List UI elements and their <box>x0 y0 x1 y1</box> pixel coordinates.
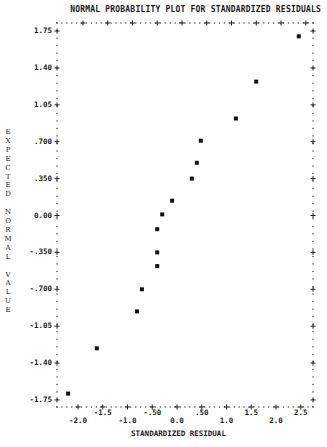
frame-right-dot <box>312 226 313 227</box>
frame-bottom-dot <box>293 406 294 407</box>
data-point <box>155 227 159 231</box>
frame-right-dot <box>312 339 313 340</box>
frame-top-dot <box>150 22 151 23</box>
frame-bottom-dot <box>91 406 92 407</box>
frame-bottom-dot <box>209 406 210 407</box>
frame-left-dot <box>56 294 57 295</box>
frame-left-dot <box>56 331 57 332</box>
frame-top-dot <box>239 22 240 23</box>
frame-right-dot <box>312 196 313 197</box>
frame-bottom-dot <box>258 406 259 407</box>
frame-left-dot <box>56 60 57 61</box>
frame-left-dot <box>56 376 57 377</box>
frame-right-dot <box>312 271 313 272</box>
frame-right-dot <box>312 211 313 212</box>
frame-right-dot <box>312 22 313 23</box>
frame-bottom-dot <box>263 406 264 407</box>
frame-top-dot <box>244 22 245 23</box>
frame-bottom-dot <box>283 406 284 407</box>
frame-top-dot <box>293 22 294 23</box>
frame-bottom-dot <box>194 406 195 407</box>
frame-top-dot <box>120 22 121 23</box>
frame-top-dot <box>194 22 195 23</box>
frame-bottom-dot <box>244 406 245 407</box>
frame-bottom-dot <box>66 406 67 407</box>
frame-right-dot <box>312 376 313 377</box>
frame-bottom-dot <box>116 406 117 407</box>
frame-left-dot <box>56 271 57 272</box>
frame-left-dot <box>56 173 57 174</box>
data-point <box>140 287 144 291</box>
frame-right-dot <box>312 53 313 54</box>
frame-right-dot <box>312 256 313 257</box>
frame-top-dot <box>184 22 185 23</box>
frame-right-dot <box>312 166 313 167</box>
data-point <box>195 161 199 165</box>
frame-left-dot <box>56 301 57 302</box>
data-point <box>66 392 70 396</box>
frame-bottom-dot <box>234 406 235 407</box>
frame-left-dot <box>56 391 57 392</box>
frame-top-dot <box>125 22 126 23</box>
frame-top-dot <box>61 22 62 23</box>
frame-bottom-dot <box>135 406 136 407</box>
frame-top-dot <box>268 22 269 23</box>
data-point <box>254 80 258 84</box>
frame-left-dot <box>56 203 57 204</box>
frame-left-dot <box>56 75 57 76</box>
frame-top-dot <box>273 22 274 23</box>
frame-top-dot <box>86 22 87 23</box>
data-point <box>234 117 238 121</box>
frame-top-dot <box>135 22 136 23</box>
frame-left-dot <box>56 166 57 167</box>
frame-top-dot <box>248 22 249 23</box>
frame-right-dot <box>312 158 313 159</box>
frame-bottom-dot <box>308 406 309 407</box>
frame-left-dot <box>56 90 57 91</box>
frame-bottom-dot <box>130 406 131 407</box>
frame-left-dot <box>56 278 57 279</box>
frame-top-dot <box>175 22 176 23</box>
frame-right-dot <box>312 83 313 84</box>
data-point <box>190 177 194 181</box>
frame-left-dot <box>56 346 57 347</box>
frame-left-dot <box>56 38 57 39</box>
frame-bottom-dot <box>184 406 185 407</box>
frame-right-dot <box>312 98 313 99</box>
frame-bottom-dot <box>214 406 215 407</box>
frame-left-dot <box>56 128 57 129</box>
frame-right-dot <box>312 75 313 76</box>
frame-left-dot <box>56 98 57 99</box>
frame-top-dot <box>71 22 72 23</box>
frame-top-dot <box>170 22 171 23</box>
frame-bottom-dot <box>140 406 141 407</box>
frame-bottom-dot <box>288 406 289 407</box>
frame-top-dot <box>96 22 97 23</box>
frame-top-dot <box>140 22 141 23</box>
frame-right-dot <box>312 173 313 174</box>
frame-bottom-dot <box>120 406 121 407</box>
frame-top-dot <box>224 22 225 23</box>
frame-left-dot <box>56 53 57 54</box>
frame-right-dot <box>312 294 313 295</box>
frame-left-dot <box>56 120 57 121</box>
frame-right-dot <box>312 38 313 39</box>
frame-bottom-dot <box>239 406 240 407</box>
frame-left-dot <box>56 263 57 264</box>
frame-top-dot <box>214 22 215 23</box>
frame-bottom-dot <box>170 406 171 407</box>
frame-right-dot <box>312 233 313 234</box>
data-point <box>95 346 99 350</box>
plot-area <box>0 0 327 447</box>
data-point <box>170 199 174 203</box>
frame-bottom-dot <box>219 406 220 407</box>
frame-left-dot <box>56 233 57 234</box>
frame-bottom-dot <box>111 406 112 407</box>
frame-top-dot <box>91 22 92 23</box>
frame-bottom-dot <box>145 406 146 407</box>
frame-bottom-dot <box>71 406 72 407</box>
frame-bottom-dot <box>180 406 181 407</box>
frame-right-dot <box>312 301 313 302</box>
frame-top-dot <box>116 22 117 23</box>
frame-top-dot <box>101 22 102 23</box>
